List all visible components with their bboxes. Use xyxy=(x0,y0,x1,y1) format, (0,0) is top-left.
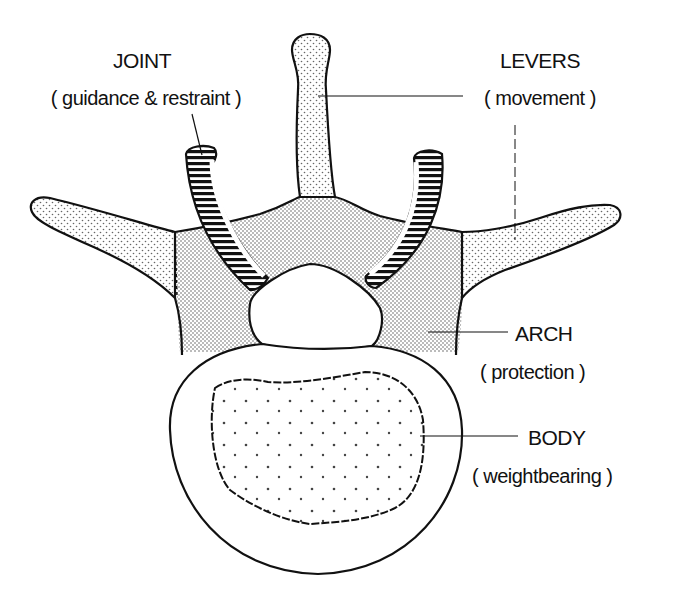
right-transverse-process xyxy=(462,205,620,298)
left-transverse-process xyxy=(31,197,175,298)
label-levers-subtitle: ( movement ) xyxy=(484,87,596,109)
label-joint-title: JOINT xyxy=(113,49,172,72)
spinous-process xyxy=(292,34,335,197)
vertebra-diagram: JOINT ( guidance & restraint ) LEVERS ( … xyxy=(0,0,691,593)
label-joint-subtitle: ( guidance & restraint ) xyxy=(51,87,241,109)
label-arch-subtitle: ( protection ) xyxy=(480,361,585,383)
label-arch-title: ARCH xyxy=(515,322,573,345)
label-body-title: BODY xyxy=(528,426,586,449)
label-body-subtitle: ( weightbearing ) xyxy=(472,465,612,487)
label-levers-title: LEVERS xyxy=(500,49,580,72)
